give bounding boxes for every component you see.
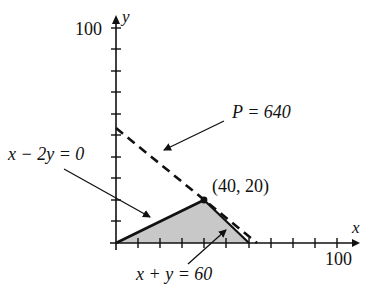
x-axis-arrow-icon — [352, 239, 360, 247]
x-tick-label-100: 100 — [325, 249, 352, 269]
linear-programming-diagram: 100 y x 100 P = 640 x − 2y = 0 (40, 20) … — [0, 0, 365, 294]
y-tick-label-100: 100 — [75, 19, 102, 39]
constraint1-label: x − 2y = 0 — [7, 144, 84, 164]
y-axis-arrow-icon — [112, 15, 120, 24]
constraint2-label: x + y = 60 — [135, 264, 212, 284]
y-axis-label: y — [120, 7, 130, 26]
vertex-point — [201, 197, 208, 204]
vertex-label: (40, 20) — [212, 176, 269, 197]
x-axis-label: x — [351, 218, 360, 237]
objective-label: P = 640 — [231, 102, 291, 122]
pointer-arrow-objective — [164, 121, 224, 150]
pointer-arrow-constraint1 — [64, 169, 150, 217]
feasible-region — [116, 200, 249, 243]
